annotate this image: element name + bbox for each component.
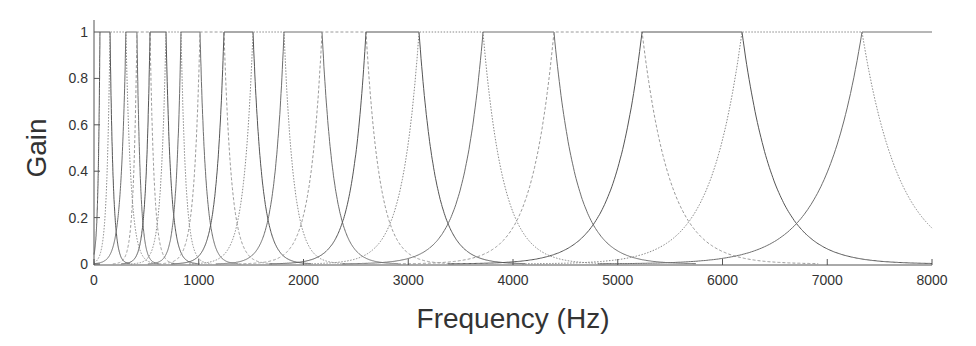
filter-curve [216,32,398,264]
y-tick-label: 1 [80,24,88,40]
x-axis-title: Frequency (Hz) [417,303,610,334]
x-tick-label: 6000 [707,272,738,288]
filter-curve [522,32,932,264]
filter-curve [94,32,130,264]
filter-curve [398,32,818,264]
filter-curve [121,32,198,264]
x-tick-label: 1000 [183,272,214,288]
filterbank-gain-chart: 010002000300040005000600070008000 00.20.… [0,0,976,346]
y-tick-label: 0 [80,256,88,272]
y-ticks: 00.20.40.60.81 [69,24,100,272]
y-axis-title: Gain [21,118,52,177]
y-tick-label: 0.6 [69,117,89,133]
filter-curve [148,32,238,264]
filter-curve [598,32,932,264]
filter-curve [302,32,611,264]
filter-curve [171,32,311,264]
x-tick-label: 5000 [602,272,633,288]
filter-curve [189,32,346,264]
x-tick-label: 2000 [288,272,319,288]
filter-curve [269,32,525,264]
y-tick-label: 0.8 [69,70,89,86]
x-tick-label: 4000 [497,272,528,288]
filter-curve [94,32,158,264]
y-tick-label: 0.4 [69,163,89,179]
x-tick-label: 0 [90,272,98,288]
x-tick-label: 8000 [916,272,947,288]
filter-curves [94,32,932,264]
x-tick-label: 7000 [812,272,843,288]
filter-curve [342,32,696,264]
y-tick-label: 0.2 [69,210,89,226]
x-tick-label: 3000 [393,272,424,288]
